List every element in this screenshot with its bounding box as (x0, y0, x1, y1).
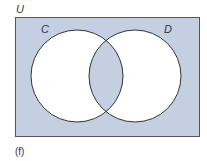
set-d-label: D (164, 23, 172, 35)
set-c-label: C (41, 23, 49, 35)
universe-label: U (16, 3, 24, 15)
venn-diagram: U C D (f) (0, 0, 207, 161)
caption: (f) (15, 146, 24, 157)
